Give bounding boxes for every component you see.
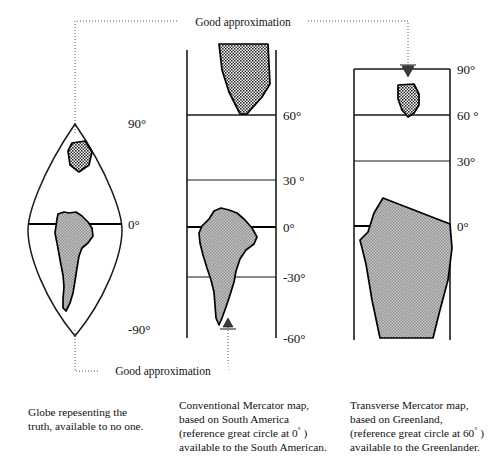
conventional-south-america-shape (199, 208, 257, 325)
top-good-approximation-label: Good approximation (195, 16, 291, 29)
conventional-caption-line-3: (reference great circle at 0° ) (179, 426, 308, 440)
transverse-caption-ref-prefix: (reference great circle at (350, 427, 463, 440)
transverse-cone-glyph (402, 66, 414, 77)
conventional-label-60: 60° (283, 108, 301, 123)
conventional-label-30: 30 ° (283, 173, 304, 188)
transverse-caption-line-1: Transverse Mercator map, (350, 399, 469, 411)
transverse-south-america-shape (360, 198, 452, 338)
transverse-greenland-shape (398, 84, 419, 117)
transverse-label-90: 90° (457, 62, 475, 77)
transverse-caption-line-3: (reference great circle at 60° ) (350, 426, 484, 440)
globe-caption-line-1: Globe repesenting the (28, 406, 127, 418)
conventional-caption-line-4: available to the South American. (179, 441, 327, 453)
bottom-annotation-bracket: Good approximation (75, 327, 228, 379)
transverse-label-60: 60 ° (457, 108, 478, 123)
conventional-caption-line-1: Conventional Mercator map, (179, 399, 309, 411)
transverse-caption-line-2: based on Greenland, (350, 413, 443, 425)
conventional-caption-ref-suffix: ) (301, 427, 308, 440)
conventional-caption-ref-prefix: (reference great circle at (179, 427, 292, 440)
mercator-comparison-diagram: Good approximation Good approximation 90… (0, 0, 500, 466)
globe-panel: 90° 0° -90° Globe repesenting the truth,… (28, 116, 151, 432)
globe-label-90: 90° (128, 116, 146, 131)
conventional-caption-line-2: based on South America (179, 413, 289, 425)
transverse-label-0: 0° (457, 219, 469, 234)
transverse-caption-ref-value: 60 (463, 427, 475, 439)
globe-south-america-shape (55, 212, 93, 311)
bottom-good-approximation-label: Good approximation (115, 365, 211, 378)
conventional-label-minus-60: -60° (283, 331, 306, 346)
globe-label-minus-90: -90° (128, 322, 151, 337)
figure-root: Good approximation Good approximation 90… (0, 0, 500, 466)
globe-caption-line-2: truth, available to no one. (28, 420, 144, 432)
conventional-mercator-panel: 60° 30 ° 0° -30° -60° Conventional Merca… (179, 44, 327, 453)
transverse-caption-line-4: available to the Greenlander. (350, 441, 480, 453)
transverse-mercator-panel: 90° 60 ° 30° 0° Transverse Mercator map,… (350, 62, 484, 453)
conventional-cone-glyph (223, 318, 233, 327)
conventional-greenland-shape (219, 44, 270, 114)
conventional-label-minus-30: -30° (283, 270, 306, 285)
globe-greenland-shape (68, 141, 92, 172)
globe-label-0: 0° (128, 217, 140, 232)
transverse-label-30: 30° (457, 154, 475, 169)
conventional-label-0: 0° (283, 220, 295, 235)
transverse-pole-cone-marker (400, 65, 416, 77)
transverse-caption-ref-suffix: ) (477, 427, 484, 440)
